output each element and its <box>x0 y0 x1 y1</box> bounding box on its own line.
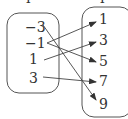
output-label-fragment: ı <box>100 0 105 6</box>
mapping-diagram: ı ı −3 −1 1 3 1 3 5 7 9 <box>0 0 128 119</box>
domain-value: −1 <box>25 35 46 51</box>
range-value: 1 <box>99 11 108 27</box>
input-label-fragment: ı <box>26 0 31 6</box>
domain-value: 1 <box>29 51 38 67</box>
range-value: 7 <box>99 73 108 89</box>
mapping-svg: ı ı −3 −1 1 3 1 3 5 7 9 <box>0 0 128 119</box>
range-value: 9 <box>99 96 108 112</box>
domain-value: −3 <box>25 19 46 35</box>
domain-value: 3 <box>29 70 38 86</box>
arrow-neg3-to-9 <box>43 25 96 100</box>
range-value: 3 <box>99 32 108 48</box>
arrow-neg1-to-1 <box>47 22 96 43</box>
arrow-neg1-to-5 <box>47 43 96 62</box>
arrow-3-to-7 <box>43 77 96 82</box>
range-value: 5 <box>99 53 108 69</box>
